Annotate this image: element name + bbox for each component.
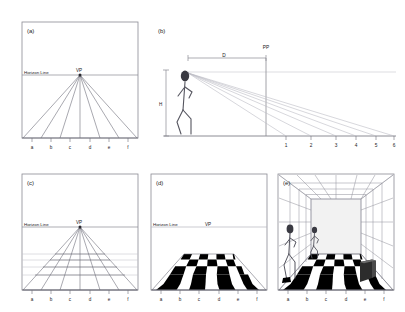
tick-label: 4 <box>355 143 358 148</box>
tick-label: a <box>31 145 34 150</box>
tick-label: d <box>89 145 92 150</box>
panel-e-drawing: (e) a b c d e f <box>272 166 400 308</box>
ground-tickmarks <box>286 136 394 140</box>
tick-label: e <box>108 145 111 150</box>
picture-plane-label: PP <box>263 45 269 50</box>
picture-frame <box>151 174 267 290</box>
perspective-figure: (a) Horizon Line VP a b c d e f (b) <box>0 0 405 312</box>
observer-figure <box>177 71 192 134</box>
tick-label: b <box>179 297 182 302</box>
panel-label-b: (b) <box>158 28 165 34</box>
tick-label: b <box>306 297 309 302</box>
tick-label: d <box>89 297 92 302</box>
vanishing-point-marker <box>79 226 82 229</box>
figure-head <box>181 71 189 82</box>
panel-label-d: (d) <box>156 180 163 186</box>
tick-label: a <box>160 297 163 302</box>
baseline-tickmarks <box>32 138 128 142</box>
tick-label: d <box>345 297 348 302</box>
back-wall <box>311 199 361 254</box>
distance-measure <box>188 55 266 61</box>
vanishing-point-label-c: VP <box>76 220 82 225</box>
figure-head <box>287 225 294 234</box>
tick-label: b <box>50 145 53 150</box>
tick-label: e <box>364 297 367 302</box>
baseline-tickmarks <box>161 290 257 294</box>
tick-label: f <box>383 297 385 302</box>
tick-label: e <box>237 297 240 302</box>
panel-label-e: (e) <box>283 180 290 186</box>
vanishing-point-label-a: VP <box>76 68 82 73</box>
vanishing-point-marker <box>79 74 82 77</box>
tick-label: f <box>256 297 258 302</box>
tick-label: f <box>127 145 129 150</box>
tick-label: 2 <box>310 143 313 148</box>
panel-b: (b) H D PP <box>150 14 400 154</box>
tick-label: e <box>108 297 111 302</box>
baseline-tickmarks <box>32 290 128 294</box>
tick-label: d <box>218 297 221 302</box>
tick-label: 1 <box>285 143 288 148</box>
tick-label: a <box>31 297 34 302</box>
panel-d: (d) Horizon Line VP a b c d e f <box>145 166 273 308</box>
panel-b-drawing: (b) H D PP <box>150 14 400 154</box>
panel-a: (a) Horizon Line VP a b c d e f <box>16 14 144 154</box>
baseline-tick-labels-c: a b c d e f <box>31 297 130 302</box>
panel-c-drawing: (c) Horizon Line VP a b c d e f <box>16 166 144 308</box>
figure-head <box>312 227 317 234</box>
tick-label: c <box>198 297 201 302</box>
sight-rays <box>188 73 394 136</box>
height-measure <box>163 70 169 136</box>
horizon-line-label-a: Horizon Line <box>24 70 49 75</box>
horizon-line-label-c: Horizon Line <box>24 222 49 227</box>
height-label-b: H <box>159 102 162 107</box>
panel-d-drawing: (d) Horizon Line VP a b c d e f <box>145 166 273 308</box>
tick-label: 5 <box>375 143 378 148</box>
panel-e: (e) a b c d e f <box>272 166 400 308</box>
panel-c: (c) Horizon Line VP a b c d e f <box>16 166 144 308</box>
baseline-tickmarks <box>288 290 384 294</box>
tick-label: c <box>325 297 328 302</box>
tick-label: 3 <box>335 143 338 148</box>
vanishing-point-label-d: VP <box>205 222 211 227</box>
baseline-tick-labels-d: a b c d e f <box>160 297 259 302</box>
panel-label-a: (a) <box>27 28 34 34</box>
tick-label: 6 <box>393 143 396 148</box>
ground-tick-labels-b: 1 2 3 4 5 6 <box>285 143 396 148</box>
panel-a-drawing: (a) Horizon Line VP a b c d e f <box>16 14 144 154</box>
tick-label: a <box>287 297 290 302</box>
horizon-line-label-d: Horizon Line <box>153 222 178 227</box>
baseline-tick-labels-a: a b c d e f <box>31 145 130 150</box>
tick-label: c <box>69 297 72 302</box>
tick-label: b <box>50 297 53 302</box>
panel-label-c: (c) <box>27 180 34 186</box>
tick-label: f <box>127 297 129 302</box>
baseline-tick-labels-e: a b c d e f <box>287 297 386 302</box>
distance-label-b: D <box>222 53 226 58</box>
tick-label: c <box>69 145 72 150</box>
